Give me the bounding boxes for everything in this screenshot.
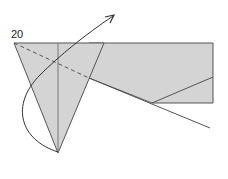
paper-flap-right: [89, 43, 213, 103]
fold-diagram: [0, 0, 228, 179]
paper-point-triangle: [14, 43, 104, 153]
